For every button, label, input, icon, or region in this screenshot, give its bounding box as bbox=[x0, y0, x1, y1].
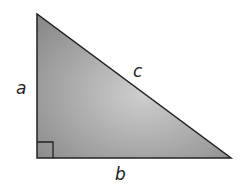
right-triangle-diagram bbox=[0, 0, 250, 190]
triangle bbox=[37, 14, 231, 158]
label-side-c: c bbox=[133, 63, 142, 80]
label-side-b: b bbox=[115, 166, 126, 183]
label-side-a: a bbox=[16, 80, 26, 97]
